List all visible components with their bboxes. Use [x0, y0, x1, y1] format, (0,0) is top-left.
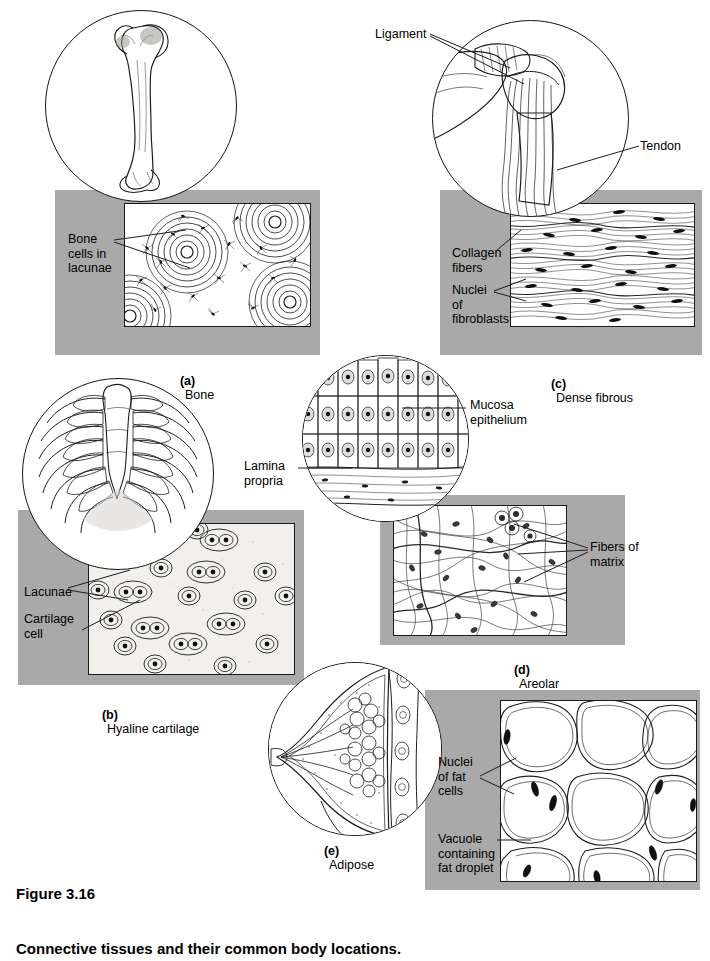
label-tendon: Tendon: [640, 139, 681, 154]
dense-fibrous-tissue-micrograph: [510, 203, 695, 327]
breast-cross-section-icon: [268, 662, 442, 836]
figure-caption: Figure 3.16 Connective tissues and their…: [16, 848, 401, 961]
label-lacunae: Lacunae: [24, 585, 72, 600]
caption-panel-b: (b) Hyaline cartilage: [88, 694, 199, 750]
leader-nuclei-fibroblasts: [492, 275, 530, 309]
label-bone-cells-in-lacunae: Bone cells in lacunae: [68, 232, 112, 276]
label-ligament: Ligament: [375, 27, 426, 42]
caption-letter-b: (b): [102, 708, 118, 722]
leader-tendon: [555, 140, 643, 180]
femur-bone-icon: [45, 10, 237, 202]
rib-cage-icon: [22, 378, 214, 570]
label-collagen-fibers: Collagen fibers: [452, 246, 501, 275]
caption-panel-c: (c) Dense fibrous: [537, 363, 633, 419]
caption-text-c: Dense fibrous: [551, 391, 633, 405]
caption-text-d: Areolar: [514, 677, 559, 691]
label-cartilage-cell: Cartilage cell: [24, 612, 74, 641]
label-fibers-of-matrix: Fibers of matrix: [590, 540, 639, 569]
mucosa-lamina-propria-icon: [302, 355, 469, 522]
label-lamina-propria: Lamina propria: [244, 459, 285, 488]
leader-lamina: [296, 462, 356, 476]
caption-text-a: Bone: [180, 388, 214, 402]
caption-text-b: Hyaline cartilage: [102, 722, 199, 736]
leader-fibers-matrix: [510, 510, 592, 590]
leader-collagen: [495, 228, 525, 254]
label-nuclei-of-fat-cells: Nuclei of fat cells: [438, 755, 473, 799]
leader-bone-cells: [110, 228, 200, 278]
caption-letter-d: (d): [514, 663, 530, 677]
figure-number: Figure 3.16: [16, 884, 401, 903]
leader-ligament: [428, 28, 528, 103]
figure-caption-text: Connective tissues and their common body…: [16, 939, 401, 958]
leader-cartilage-cell: [80, 596, 144, 634]
caption-letter-a: (a): [180, 374, 195, 388]
caption-letter-c: (c): [551, 377, 566, 391]
leader-mucosa: [400, 402, 470, 416]
leader-vacuole: [495, 834, 535, 848]
adipose-tissue-micrograph: [500, 700, 697, 882]
label-vacuole-containing-fat-droplet: Vacuole containing fat droplet: [438, 832, 495, 876]
leader-nuclei-fat: [478, 752, 520, 800]
label-mucosa-epithelium: Mucosa epithelium: [470, 398, 527, 427]
